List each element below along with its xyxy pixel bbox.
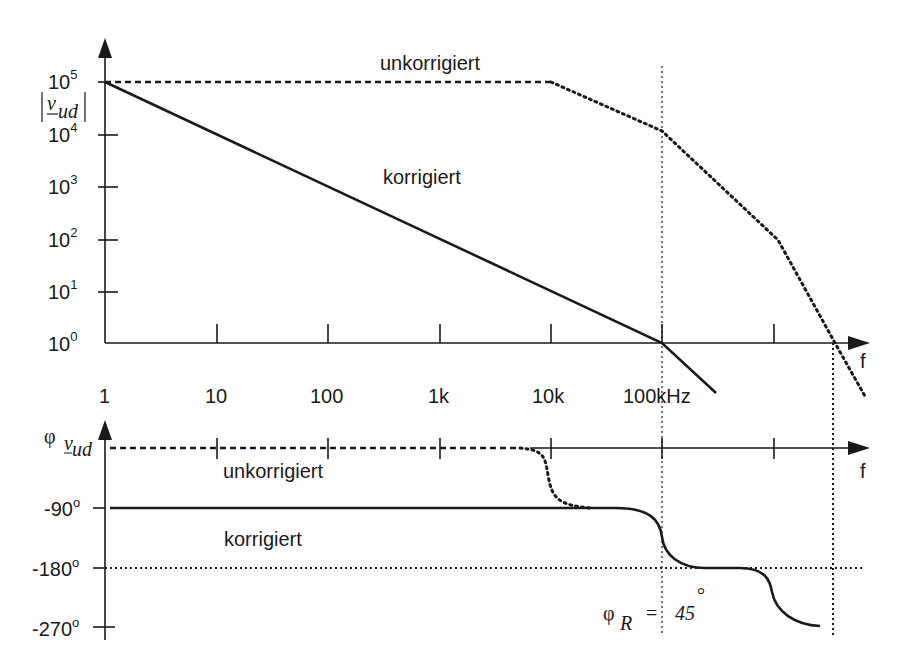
magnitude-label-corrected: korrigiert <box>383 166 461 188</box>
y-axis-arrow-icon <box>98 38 112 58</box>
x-axis-arrow-icon <box>848 336 870 350</box>
magnitude-x-label: f <box>860 350 866 372</box>
svg-text:ud: ud <box>58 100 79 122</box>
svg-text:10: 10 <box>205 385 227 407</box>
svg-text:100kHz: 100kHz <box>623 385 691 407</box>
svg-text:=: = <box>646 602 657 624</box>
svg-text:-90o: -90o <box>44 495 80 520</box>
bode-diagram: 105 104 103 102 101 100 v ud f unkorrigi… <box>0 0 906 668</box>
svg-text:φ: φ <box>603 602 615 625</box>
magnitude-uncorrected-rolloff <box>551 82 866 398</box>
phase-label-uncorrected: unkorrigiert <box>223 460 323 482</box>
phase-margin-annotation: φ R = 45 ° <box>603 584 705 634</box>
svg-text:104: 104 <box>48 120 77 146</box>
svg-text:1: 1 <box>99 385 110 407</box>
svg-text:1k: 1k <box>428 385 450 407</box>
phase-x-axis-arrow-icon <box>848 441 870 455</box>
svg-text:-180o: -180o <box>32 555 79 580</box>
svg-text:φ: φ <box>44 425 56 448</box>
svg-text:100: 100 <box>48 329 77 355</box>
frequency-tick-labels: 1 10 100 1k 10k 100kHz <box>99 385 691 407</box>
magnitude-plot: 105 104 103 102 101 100 v ud f unkorrigi… <box>42 38 870 398</box>
phase-plot: f -90o -180o -270o φ v ud unkorrigiert k… <box>32 420 870 640</box>
phase-y-axis-arrow-icon <box>98 420 112 440</box>
svg-text:10k: 10k <box>532 385 565 407</box>
phase-y-tick-labels: -90o -180o -270o <box>32 495 80 640</box>
magnitude-y-label: v ud <box>42 92 85 122</box>
phase-x-label: f <box>860 460 866 482</box>
svg-text:R: R <box>619 612 632 634</box>
svg-text:101: 101 <box>48 277 77 303</box>
svg-text:103: 103 <box>48 172 77 198</box>
magnitude-corrected-line <box>105 82 716 393</box>
svg-text:v: v <box>47 92 56 114</box>
phase-y-label: φ v ud <box>44 425 93 460</box>
phase-label-corrected: korrigiert <box>224 528 302 550</box>
svg-text:°: ° <box>697 584 705 606</box>
svg-text:100: 100 <box>310 385 343 407</box>
svg-text:102: 102 <box>48 225 77 251</box>
phase-uncorrected-rolloff <box>520 448 590 508</box>
svg-text:-270o: -270o <box>32 615 79 640</box>
svg-text:45: 45 <box>675 602 695 624</box>
svg-text:105: 105 <box>48 67 77 93</box>
svg-text:ud: ud <box>72 438 93 460</box>
magnitude-label-uncorrected: unkorrigiert <box>380 52 480 74</box>
